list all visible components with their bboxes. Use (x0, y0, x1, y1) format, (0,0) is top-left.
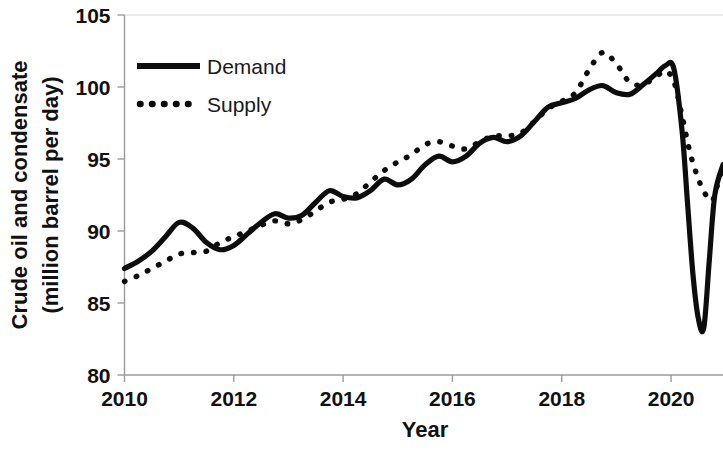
y-tick-label-100: 100 (75, 76, 110, 99)
y-axis-title-line1: Crude oil and condensate (7, 61, 32, 330)
y-axis-title-line2: (million barrel per day) (38, 76, 63, 313)
x-tick-label-2018: 2018 (538, 387, 585, 410)
x-tick-label-2012: 2012 (210, 387, 257, 410)
chart-legend: Demand Supply (137, 55, 286, 116)
y-tick-label-90: 90 (87, 220, 110, 243)
y-tick-label-95: 95 (87, 148, 111, 171)
y-axis-tick-labels: 80859095100105 (75, 4, 110, 387)
x-tick-label-2020: 2020 (648, 387, 695, 410)
x-axis-title: Year (402, 417, 449, 442)
legend-label-demand: Demand (207, 55, 286, 78)
legend-label-supply: Supply (207, 93, 272, 116)
y-axis-ticks (118, 15, 125, 375)
x-axis-tick-labels: 201020122014201620182020 (101, 387, 694, 410)
y-tick-label-105: 105 (75, 4, 110, 27)
x-axis-ticks (125, 375, 672, 382)
x-tick-label-2016: 2016 (429, 387, 476, 410)
chart-container: 80859095100105 201020122014201620182020 … (0, 0, 723, 450)
y-tick-label-80: 80 (87, 364, 110, 387)
y-tick-label-85: 85 (87, 292, 111, 315)
x-tick-label-2010: 2010 (101, 387, 148, 410)
line-chart: 80859095100105 201020122014201620182020 … (0, 0, 723, 450)
x-tick-label-2014: 2014 (320, 387, 367, 410)
